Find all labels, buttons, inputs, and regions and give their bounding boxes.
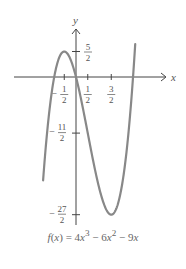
x-tick-label-denominator: 2 — [86, 95, 91, 105]
x-tick-label-denominator: 2 — [109, 95, 114, 105]
y-tick-label-sign: − — [49, 208, 55, 219]
x-tick-label-numerator: 1 — [62, 84, 67, 94]
y-tick-label-numerator: 27 — [58, 204, 68, 214]
y-axis-label: y — [72, 14, 78, 26]
y-tick-label-numerator: 11 — [58, 122, 67, 132]
x-tick-label-denominator: 2 — [62, 95, 67, 105]
y-tick-label-denominator: 2 — [86, 53, 91, 63]
x-tick-label-numerator: 3 — [109, 84, 114, 94]
function-caption: f(x) = 4x3 − 6x2 − 9x — [0, 228, 186, 243]
y-tick-label-numerator: 5 — [86, 42, 91, 52]
y-tick-label-denominator: 2 — [60, 133, 65, 143]
x-tick-label-numerator: 1 — [86, 84, 91, 94]
y-tick-label-denominator: 2 — [60, 215, 65, 225]
y-tick-label-sign: − — [49, 126, 55, 137]
x-axis-label: x — [170, 71, 176, 83]
